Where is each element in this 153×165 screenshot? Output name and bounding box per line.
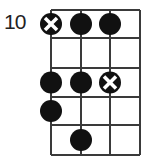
note-dot	[40, 100, 62, 122]
note-dot	[70, 129, 92, 151]
note-dot	[99, 13, 121, 35]
fretboard-grid	[51, 10, 140, 155]
root-note-marker	[99, 72, 121, 94]
note-markers	[40, 13, 121, 151]
note-dot	[70, 13, 92, 35]
root-note-marker	[40, 13, 62, 35]
note-dot	[70, 72, 92, 94]
fretboard-diagram	[0, 0, 153, 165]
note-dot	[40, 72, 62, 94]
